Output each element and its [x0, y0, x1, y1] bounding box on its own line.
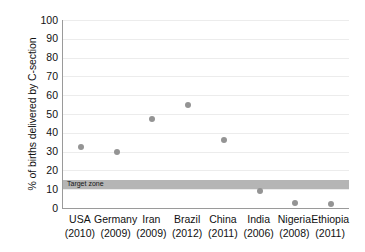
- x-axis-tick-country: Iran: [136, 212, 166, 226]
- gridline: [63, 20, 349, 21]
- y-axis-tick: 0: [32, 203, 58, 214]
- x-axis-tick: Nigeria(2008): [278, 212, 311, 240]
- data-point[interactable]: [114, 149, 120, 155]
- x-axis-tick-country: China: [208, 212, 238, 226]
- gridline: [63, 114, 349, 115]
- data-point[interactable]: [292, 200, 298, 206]
- x-axis-tick-country: Ethiopia: [311, 212, 349, 226]
- x-axis-tick-year: (2009): [94, 226, 137, 240]
- x-axis-tick: Ethiopia(2011): [311, 212, 349, 240]
- gridline: [63, 39, 349, 40]
- target-zone-label: Target zone: [67, 180, 104, 188]
- x-axis-tick: Germany(2009): [94, 212, 137, 240]
- y-axis-tick: 10: [32, 184, 58, 195]
- x-axis-tick: Brazil(2012): [172, 212, 202, 240]
- x-axis-tick-country: India: [243, 212, 273, 226]
- x-axis-tick-country: Germany: [94, 212, 137, 226]
- x-axis-tick-year: (2011): [311, 226, 349, 240]
- gridline: [63, 189, 349, 190]
- x-axis-tick-year: (2006): [243, 226, 273, 240]
- x-axis-tick-year: (2008): [278, 226, 311, 240]
- x-axis-tick-year: (2011): [208, 226, 238, 240]
- y-axis-tick: 20: [32, 165, 58, 176]
- gridline: [63, 95, 349, 96]
- target-zone-band: Target zone: [63, 180, 349, 189]
- data-point[interactable]: [257, 188, 263, 194]
- data-point[interactable]: [149, 116, 155, 122]
- scatter-chart: % of births delivered by C-section 10090…: [0, 0, 365, 252]
- x-axis-tick-year: (2012): [172, 226, 202, 240]
- x-axis-tick-country: Brazil: [172, 212, 202, 226]
- y-axis-tick: 90: [32, 33, 58, 44]
- gridline: [63, 58, 349, 59]
- data-point[interactable]: [328, 201, 334, 207]
- plot-inner: Target zone: [63, 20, 349, 208]
- gridline: [63, 76, 349, 77]
- data-point[interactable]: [78, 144, 84, 150]
- y-axis-tick: 40: [32, 127, 58, 138]
- data-point[interactable]: [185, 102, 191, 108]
- y-axis-tick: 30: [32, 146, 58, 157]
- gridline: [63, 170, 349, 171]
- data-point[interactable]: [221, 137, 227, 143]
- plot-area: Target zone: [62, 20, 349, 209]
- x-axis-tick-labels: USA(2010)Germany(2009)Iran(2009)Brazil(2…: [62, 212, 348, 250]
- x-axis-tick: Iran(2009): [136, 212, 166, 240]
- gridline: [63, 133, 349, 134]
- y-axis-tick: 70: [32, 71, 58, 82]
- gridline: [63, 152, 349, 153]
- x-axis-tick: China(2011): [208, 212, 238, 240]
- x-axis-tick-country: USA: [65, 212, 95, 226]
- x-axis-tick: USA(2010): [65, 212, 95, 240]
- y-axis-tick-labels: 1009080706050403020100: [32, 14, 58, 208]
- x-axis-tick-year: (2009): [136, 226, 166, 240]
- x-axis-tick-year: (2010): [65, 226, 95, 240]
- y-axis-tick: 80: [32, 52, 58, 63]
- x-axis-tick: India(2006): [243, 212, 273, 240]
- x-axis-tick-country: Nigeria: [278, 212, 311, 226]
- y-axis-tick: 60: [32, 90, 58, 101]
- y-axis-tick: 100: [32, 15, 58, 26]
- y-axis-tick: 50: [32, 109, 58, 120]
